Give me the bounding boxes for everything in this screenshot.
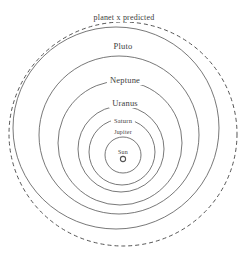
orbit-diagram: planet x predicted Pluto Neptune Uranus … bbox=[0, 0, 240, 259]
orbit-ellipse-pluto bbox=[13, 27, 219, 229]
orbit-label-planet-x: planet x predicted bbox=[91, 14, 158, 22]
sun-marker-icon bbox=[120, 156, 125, 161]
orbit-label-saturn: Saturn bbox=[111, 118, 135, 125]
orbit-label-jupiter: Jupiter bbox=[111, 129, 135, 135]
orbit-label-pluto: Pluto bbox=[111, 42, 136, 51]
orbit-label-sun: Sun bbox=[115, 149, 131, 155]
orbit-ellipse-sun bbox=[105, 137, 141, 173]
orbit-label-neptune: Neptune bbox=[107, 76, 143, 85]
orbit-label-uranus: Uranus bbox=[109, 99, 141, 108]
